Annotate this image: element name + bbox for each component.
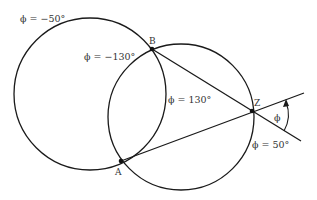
- label-b: B: [149, 36, 156, 46]
- label-inner-left: ϕ = −130°: [84, 51, 135, 62]
- point-a: [119, 159, 124, 164]
- label-inner-right: ϕ = 130°: [168, 94, 211, 105]
- point-z: [250, 109, 255, 114]
- constant-phase-circles-diagram: B A Z ϕ = −50° ϕ = −130° ϕ = 130° ϕ = 50…: [0, 0, 317, 200]
- label-z: Z: [254, 98, 260, 108]
- label-right-circle: ϕ = 50°: [252, 139, 289, 150]
- right-circle: [108, 44, 254, 190]
- point-b: [150, 47, 155, 52]
- label-angle: ϕ: [274, 112, 281, 123]
- left-circle: [14, 18, 166, 170]
- label-left-circle: ϕ = −50°: [20, 13, 65, 24]
- label-a: A: [114, 167, 122, 177]
- line-az: [121, 93, 304, 161]
